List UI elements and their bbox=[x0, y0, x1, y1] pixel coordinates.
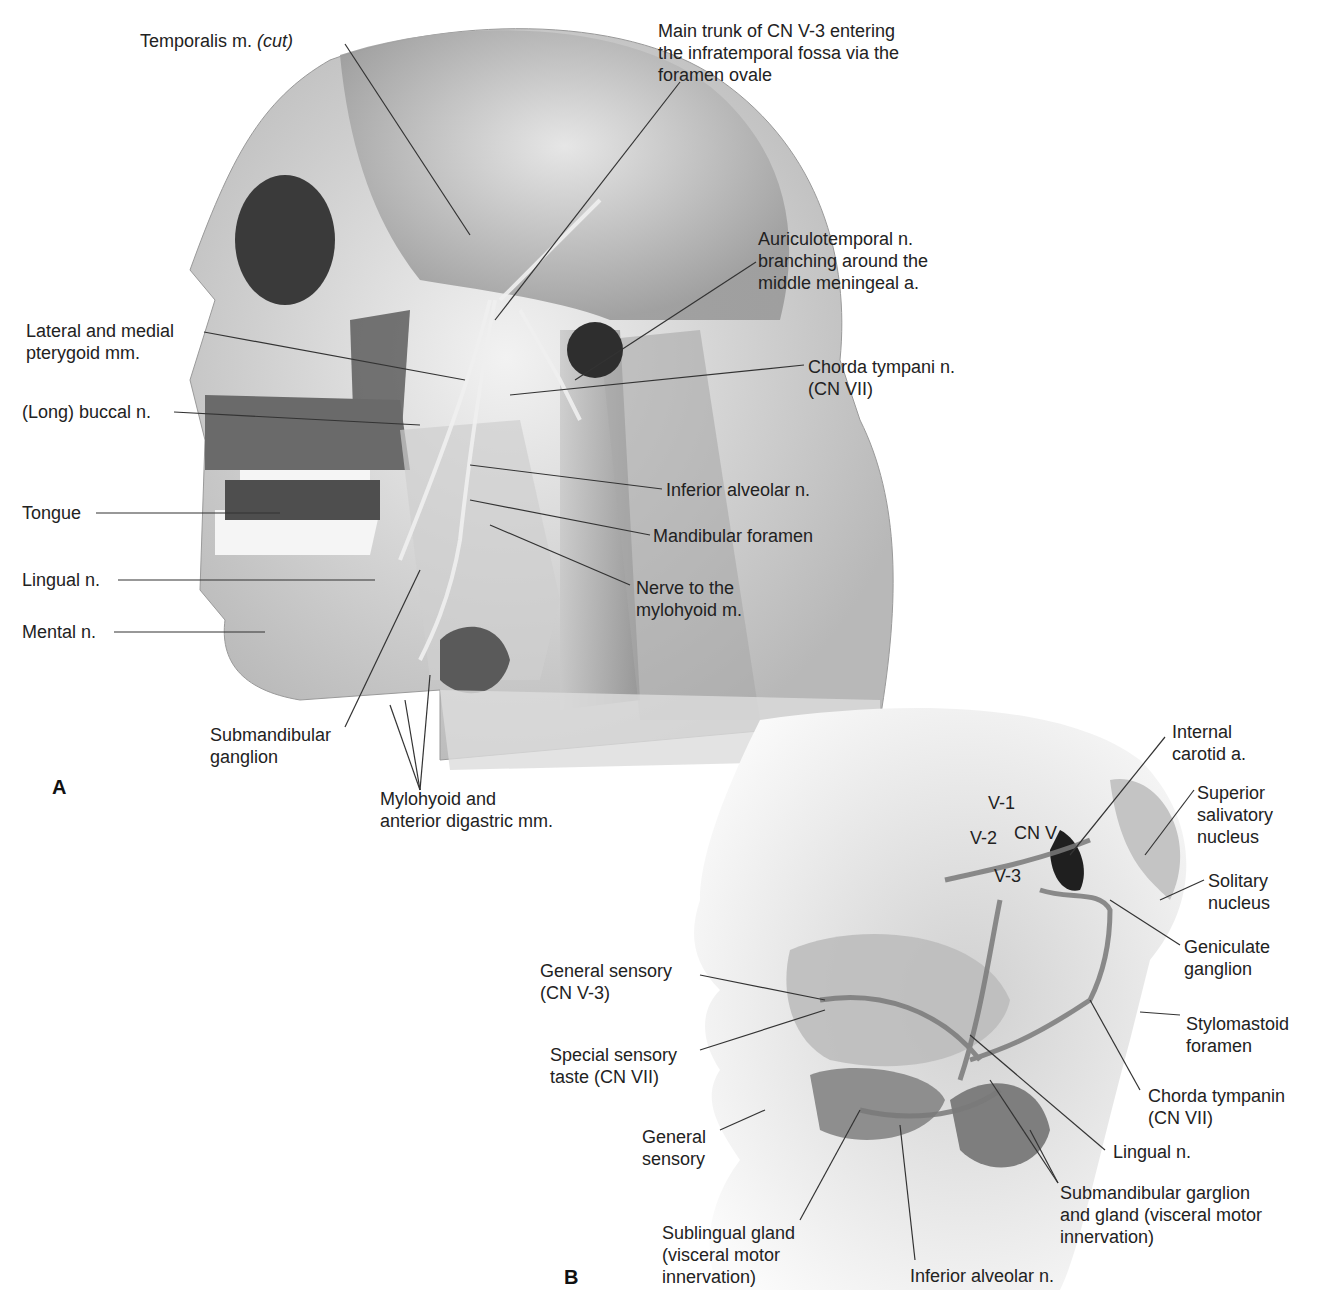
label-pterygoid-mm: Lateral and medial pterygoid mm. bbox=[26, 320, 174, 364]
label-inferior-alveolar-n-a: Inferior alveolar n. bbox=[666, 479, 810, 501]
label-temporalis-text: Temporalis m. bbox=[140, 31, 257, 51]
label-v3: V-3 bbox=[994, 865, 1021, 887]
label-tongue: Tongue bbox=[22, 502, 81, 524]
label-temporalis-cut: (cut) bbox=[257, 31, 293, 51]
panel-a-head-drawing bbox=[190, 29, 893, 770]
label-internal-carotid-a: Internal carotid a. bbox=[1172, 721, 1246, 765]
label-lingual-n-b: Lingual n. bbox=[1113, 1141, 1191, 1163]
label-general-sensory-cn-v3: General sensory (CN V-3) bbox=[540, 960, 672, 1004]
label-v2: V-2 bbox=[970, 827, 997, 849]
label-mental-n: Mental n. bbox=[22, 621, 96, 643]
anatomy-figure: Temporalis m. (cut) Main trunk of CN V-3… bbox=[0, 0, 1322, 1312]
label-temporalis: Temporalis m. (cut) bbox=[140, 30, 293, 52]
panel-letter-b: B bbox=[564, 1266, 578, 1289]
label-general-sensory: General sensory bbox=[642, 1126, 706, 1170]
label-nerve-to-mylohyoid: Nerve to the mylohyoid m. bbox=[636, 577, 742, 621]
label-special-sensory-taste: Special sensory taste (CN VII) bbox=[550, 1044, 677, 1088]
label-submandibular-ganglion-a: Submandibular ganglion bbox=[210, 724, 331, 768]
label-lingual-n-a: Lingual n. bbox=[22, 569, 100, 591]
label-solitary-nucleus: Solitary nucleus bbox=[1208, 870, 1270, 914]
label-buccal-n: (Long) buccal n. bbox=[22, 401, 151, 423]
label-submandibular-garglion-gland: Submandibular garglion and gland (viscer… bbox=[1060, 1182, 1262, 1248]
label-main-trunk-cn-v3: Main trunk of CN V-3 entering the infrat… bbox=[658, 20, 899, 86]
label-geniculate-ganglion: Geniculate ganglion bbox=[1184, 936, 1270, 980]
label-chorda-tympani-n: Chorda tympani n. (CN VII) bbox=[808, 356, 955, 400]
illustration-canvas bbox=[0, 0, 1322, 1312]
label-auriculotemporal-n: Auriculotemporal n. branching around the… bbox=[758, 228, 928, 294]
label-sublingual-gland: Sublingual gland (visceral motor innerva… bbox=[662, 1222, 795, 1288]
label-chorda-tympanin: Chorda tympanin (CN VII) bbox=[1148, 1085, 1285, 1129]
label-cn-v: CN V bbox=[1014, 822, 1057, 844]
label-mylohyoid-digastric: Mylohyoid and anterior digastric mm. bbox=[380, 788, 553, 832]
label-inferior-alveolar-n-b: Inferior alveolar n. bbox=[910, 1265, 1054, 1287]
panel-letter-a: A bbox=[52, 776, 66, 799]
label-stylomastoid-foramen: Stylomastoid foramen bbox=[1186, 1013, 1289, 1057]
label-superior-salivatory-nucleus: Superior salivatory nucleus bbox=[1197, 782, 1273, 848]
label-v1: V-1 bbox=[988, 792, 1015, 814]
label-mandibular-foramen: Mandibular foramen bbox=[653, 525, 813, 547]
